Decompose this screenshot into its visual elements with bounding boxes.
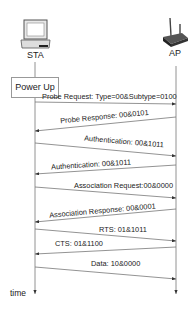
ap-label: AP xyxy=(169,48,181,58)
laptop-icon xyxy=(21,20,50,48)
message-label: RTS: 01&1011 xyxy=(99,225,147,234)
sta-label: STA xyxy=(27,50,44,60)
message-label: Association Request:00&0000 xyxy=(74,181,173,190)
message-label: Data: 10&0000 xyxy=(91,259,140,268)
time-axis-label: time xyxy=(10,288,26,298)
router-icon xyxy=(163,18,188,47)
message-label: CTS: 01&1100 xyxy=(55,239,103,248)
message-label: Probe Request: Type=00&Subtype=0100 xyxy=(42,92,177,101)
